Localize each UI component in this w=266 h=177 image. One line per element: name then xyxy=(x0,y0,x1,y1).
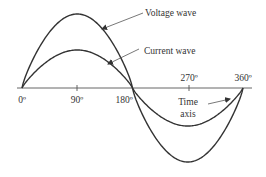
waveform-diagram: Voltage wave Current wave 0º 90º 180º 27… xyxy=(0,0,266,177)
tick-label-270: 270º xyxy=(180,73,197,83)
voltage-label-arrow xyxy=(102,13,143,29)
tick-label-90: 90º xyxy=(71,95,84,105)
tick-label-0: 0º xyxy=(18,95,26,105)
voltage-wave-label: Voltage wave xyxy=(145,8,196,18)
time-axis-label-arrow xyxy=(208,99,230,104)
time-axis-label-line2: axis xyxy=(180,109,196,119)
tick-label-180: 180º xyxy=(115,95,132,105)
current-wave-label: Current wave xyxy=(144,46,195,56)
time-axis-label-line1: Time xyxy=(178,97,198,107)
tick-label-360: 360º xyxy=(234,73,251,83)
